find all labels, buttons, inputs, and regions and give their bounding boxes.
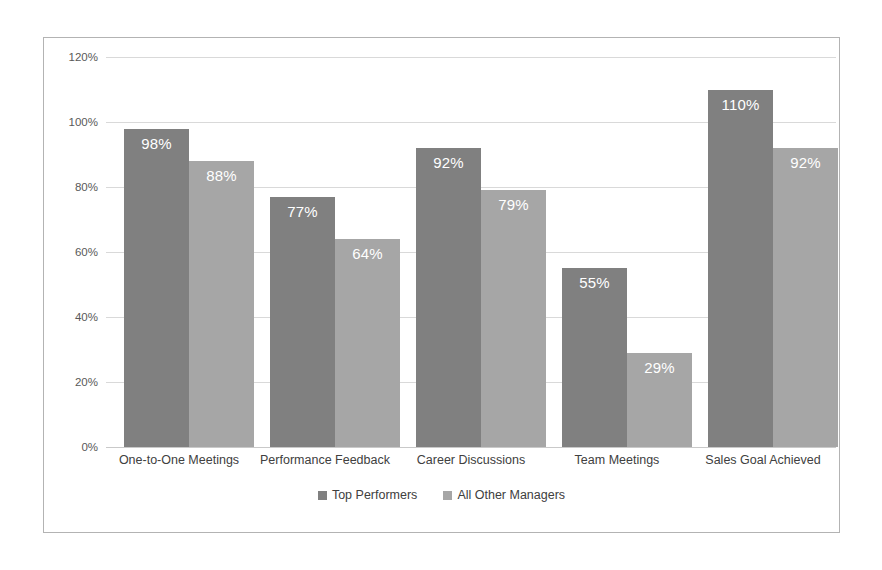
bar-value-label: 98%: [124, 135, 189, 152]
bar-group: 92%79%: [398, 57, 544, 447]
bar-value-label: 92%: [416, 154, 481, 171]
chart-legend: Top PerformersAll Other Managers: [44, 488, 839, 502]
bar-value-label: 92%: [773, 154, 838, 171]
bar-top-performers[interactable]: 110%: [708, 90, 773, 448]
y-axis-tick-label: 120%: [69, 51, 98, 63]
x-axis-category-label: Sales Goal Achieved: [690, 453, 836, 467]
bar-value-label: 29%: [627, 359, 692, 376]
chart-frame: 0%20%40%60%80%100%120% 98%88%77%64%92%79…: [43, 37, 840, 533]
gridline: [106, 447, 836, 448]
legend-label: Top Performers: [332, 488, 417, 502]
bar-group: 55%29%: [544, 57, 690, 447]
bar-value-label: 88%: [189, 167, 254, 184]
bar-all-other-managers[interactable]: 64%: [335, 239, 400, 447]
bar-group: 98%88%: [106, 57, 252, 447]
plot-area: 98%88%77%64%92%79%55%29%110%92%: [106, 57, 836, 447]
bar-value-label: 64%: [335, 245, 400, 262]
bar-all-other-managers[interactable]: 88%: [189, 161, 254, 447]
y-axis-tick-label: 0%: [81, 441, 98, 453]
bar-group: 77%64%: [252, 57, 398, 447]
y-axis-tick-label: 60%: [75, 246, 98, 258]
bar-group: 110%92%: [690, 57, 836, 447]
bar-all-other-managers[interactable]: 79%: [481, 190, 546, 447]
bar-top-performers[interactable]: 92%: [416, 148, 481, 447]
y-axis: 0%20%40%60%80%100%120%: [44, 57, 98, 447]
legend-label: All Other Managers: [457, 488, 565, 502]
bar-all-other-managers[interactable]: 29%: [627, 353, 692, 447]
bar-value-label: 77%: [270, 203, 335, 220]
y-axis-tick-label: 20%: [75, 376, 98, 388]
bar-value-label: 55%: [562, 274, 627, 291]
x-axis: One-to-One MeetingsPerformance FeedbackC…: [106, 453, 836, 477]
y-axis-tick-label: 40%: [75, 311, 98, 323]
y-axis-tick-label: 80%: [75, 181, 98, 193]
legend-swatch-icon: [318, 491, 327, 500]
x-axis-category-label: One-to-One Meetings: [106, 453, 252, 467]
legend-entry[interactable]: Top Performers: [318, 488, 417, 502]
x-axis-category-label: Performance Feedback: [252, 453, 398, 467]
bar-value-label: 79%: [481, 196, 546, 213]
bar-top-performers[interactable]: 55%: [562, 268, 627, 447]
y-axis-tick-label: 100%: [69, 116, 98, 128]
legend-entry[interactable]: All Other Managers: [443, 488, 565, 502]
bar-all-other-managers[interactable]: 92%: [773, 148, 838, 447]
legend-swatch-icon: [443, 491, 452, 500]
bar-value-label: 110%: [708, 96, 773, 113]
x-axis-category-label: Career Discussions: [398, 453, 544, 467]
x-axis-category-label: Team Meetings: [544, 453, 690, 467]
bar-top-performers[interactable]: 77%: [270, 197, 335, 447]
bar-top-performers[interactable]: 98%: [124, 129, 189, 448]
